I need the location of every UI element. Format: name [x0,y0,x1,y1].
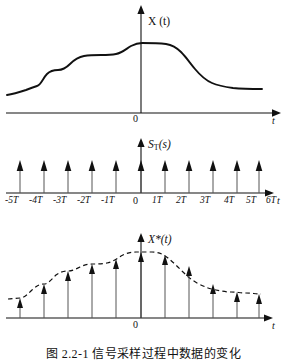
continuous-signal-plot [0,0,287,130]
impulse [234,160,241,193]
impulse [210,160,217,193]
sample-impulse [113,259,119,318]
impulse-axis-label: ST(s) [148,139,171,152]
sampled-time-label: t [272,321,275,331]
impulse-tick-label: -5T [5,196,18,206]
impulse [256,160,263,193]
signal-time-label: t [272,116,275,126]
impulse-tick-label: 5T [246,196,256,206]
time-axis [6,109,281,117]
impulse-axis-label-arg: (s) [159,138,171,150]
sample-impulse [89,264,95,318]
sample-impulse [41,284,47,318]
signal-axis-label: X (t) [148,16,170,28]
sample-impulse [234,292,240,318]
impulse-tick-label: 4T [224,196,234,206]
time-axis [6,314,273,321]
impulse-train-plot [0,130,287,230]
panel-impulse-train: ST(s) -5T -4T -3T -2T -1T 0 1T 2T 3T 4T … [0,130,287,230]
impulse-time-label: t [277,196,280,206]
sample-impulse [256,294,262,318]
impulse-tick-label: -4T [29,196,42,206]
sampled-axis-label-text: X*(t) [148,233,172,245]
impulse-tick-label: -3T [53,196,66,206]
sampling-process-figure: X (t) 0 t [0,0,287,360]
impulse [41,160,48,193]
sample-impulse [17,298,23,318]
sampled-origin-label: 0 [133,320,138,330]
impulse [65,160,72,193]
panel-continuous-signal: X (t) 0 t [0,0,287,130]
sample-impulse [162,255,168,318]
impulse-tick-label: 1T [152,196,162,206]
impulse-origin-label: 0 [133,196,138,206]
sample-impulse [186,266,192,318]
impulse-tick-label: -1T [101,196,114,206]
impulse-tick-label: -2T [77,196,90,206]
impulse [186,160,193,193]
impulse [17,160,24,193]
figure-caption: 图 2.2-1 信号采样过程中数据的变化 [0,344,287,360]
impulse-tick-label: 3T [200,196,210,206]
signal-origin-label: 0 [133,114,138,124]
impulse [89,160,96,193]
signal-waveform [7,43,262,95]
impulse-stems [17,160,263,193]
sample-impulse [138,252,144,318]
signal-axis-label-text: X (t) [148,15,170,27]
panel-sampled-signal: X*(t) 0 t [0,228,287,343]
sampled-signal-plot [0,228,287,343]
amplitude-axis [137,5,144,113]
impulse-tick-label: 6T [266,196,276,206]
impulse-tick-label: 2T [176,196,186,206]
impulse [138,160,145,193]
sample-impulse [65,271,71,318]
sample-stems [17,252,262,318]
sampled-axis-label: X*(t) [148,234,172,246]
impulse [162,160,169,193]
impulse [113,160,120,193]
